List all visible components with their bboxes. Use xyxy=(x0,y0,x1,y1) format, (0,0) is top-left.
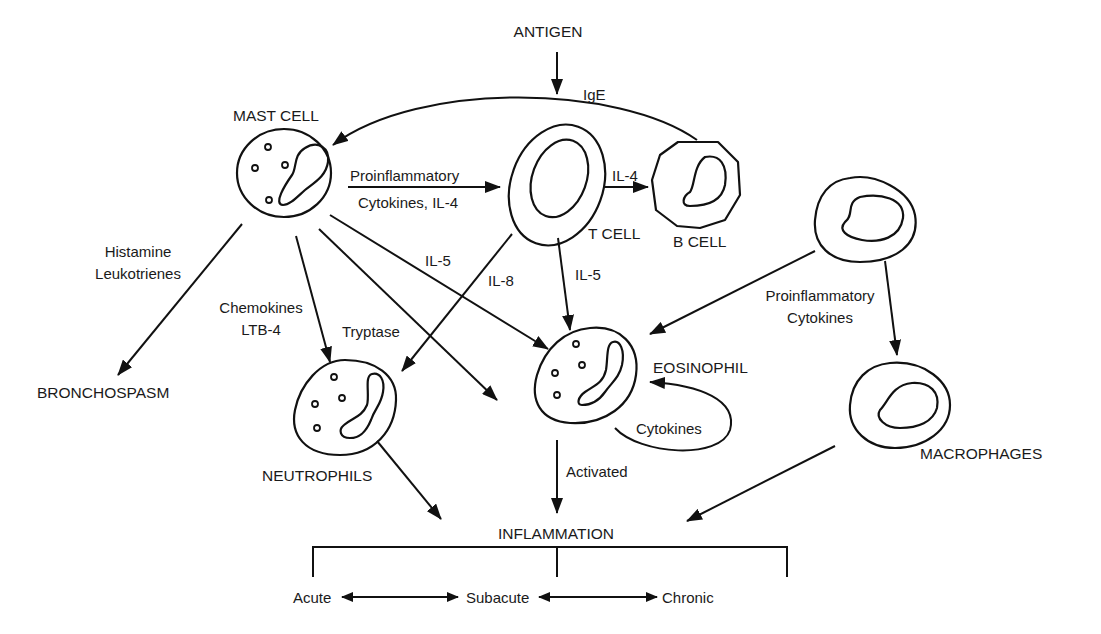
macrophage-icon xyxy=(850,363,950,448)
label-tcell-il5: IL-5 xyxy=(575,266,601,283)
antigen-label: ANTIGEN xyxy=(514,23,583,40)
arrow-neutrophils-to-inflammation xyxy=(377,441,441,519)
subacute-label: Subacute xyxy=(466,589,529,606)
label-proinflammatory-1: Proinflammatory xyxy=(350,167,460,184)
inflammation-label: INFLAMMATION xyxy=(498,525,614,542)
acute-label: Acute xyxy=(293,589,331,606)
label-eos-cytokines: Cytokines xyxy=(636,420,702,437)
node-mast-cell: MAST CELL xyxy=(233,107,331,217)
label-ltb4: LTB-4 xyxy=(241,321,281,338)
neutrophil-icon xyxy=(294,360,396,455)
node-eosinophil: EOSINOPHIL xyxy=(535,328,748,423)
inflammation-bracket xyxy=(313,547,787,577)
eosinophil-icon xyxy=(535,328,637,423)
arrow-ige-bcell-to-mast xyxy=(333,98,697,146)
label-ige: IgE xyxy=(583,86,606,103)
mast-cell-icon xyxy=(237,129,331,217)
node-b-cell: B CELL xyxy=(652,142,740,250)
arrow-monocyte-to-macrophages xyxy=(885,261,897,355)
mast-cell-label: MAST CELL xyxy=(233,107,319,124)
arrow-macrophages-to-inflammation xyxy=(687,446,835,521)
node-antigen: ANTIGEN xyxy=(514,23,583,40)
node-macrophages: MACROPHAGES xyxy=(850,363,1042,462)
label-proinflammatory-2: Cytokines, IL-4 xyxy=(358,194,458,211)
b-cell-icon xyxy=(652,142,740,228)
arrow-tcell-to-eosinophil xyxy=(558,238,570,330)
label-macro-proinflammatory-1: Proinflammatory xyxy=(765,287,875,304)
node-neutrophils: NEUTROPHILS xyxy=(262,360,396,484)
label-tryptase: Tryptase xyxy=(342,323,400,340)
monocyte-icon xyxy=(815,177,916,262)
label-activated: Activated xyxy=(566,463,628,480)
node-t-cell: T CELL xyxy=(493,111,641,259)
label-histamine: Histamine xyxy=(105,243,172,260)
inflammation-pathway-diagram: ANTIGEN IgE MAST CELL Proinflammatory Cy… xyxy=(0,0,1101,634)
arrow-eosinophil-self-loop xyxy=(615,382,731,450)
arrow-tcell-to-neutrophils xyxy=(402,234,512,371)
label-mast-il5: IL-5 xyxy=(425,252,451,269)
macrophages-label: MACROPHAGES xyxy=(920,445,1042,462)
neutrophils-label: NEUTROPHILS xyxy=(262,467,372,484)
eosinophil-label: EOSINOPHIL xyxy=(653,359,748,376)
b-cell-label: B CELL xyxy=(673,233,727,250)
label-il4: IL-4 xyxy=(612,167,638,184)
label-leukotrienes: Leukotrienes xyxy=(95,265,181,282)
node-monocyte xyxy=(815,177,916,262)
label-chemokines: Chemokines xyxy=(219,299,302,316)
arrow-mast-tryptase xyxy=(319,229,497,400)
bronchospasm-label: BRONCHOSPASM xyxy=(37,384,169,401)
chronic-label: Chronic xyxy=(662,589,714,606)
label-macro-proinflammatory-2: Cytokines xyxy=(787,309,853,326)
t-cell-label: T CELL xyxy=(588,225,641,242)
label-il8: IL-8 xyxy=(488,272,514,289)
